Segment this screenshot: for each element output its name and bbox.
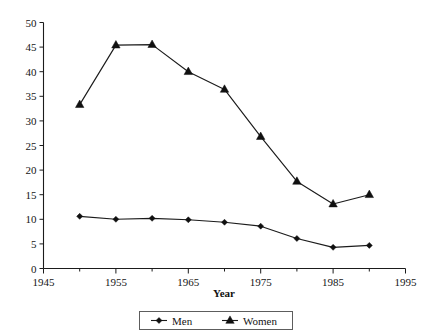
y-tick-label: 40 [26,66,38,78]
chart-canvas: 05101520253035404550 1945195519651975198… [0,0,431,334]
x-axis-title: Year [213,287,235,299]
y-tick-label: 30 [26,115,38,127]
data-point-men-1975 [258,223,264,229]
y-tick-label: 0 [31,263,37,275]
y-tick-label: 50 [26,17,38,29]
data-point-men-1990 [366,242,372,248]
y-tick-label: 10 [26,213,38,225]
y-axis: 05101520253035404550 [26,17,44,275]
x-tick-label: 1985 [322,276,345,288]
y-tick-label: 45 [26,41,38,53]
x-tick-label: 1975 [250,276,273,288]
data-point-men-1965 [185,217,191,223]
y-tick-label: 25 [26,140,38,152]
data-point-women-1990 [365,190,373,197]
data-point-men-1960 [149,215,155,221]
data-point-women-1955 [112,41,120,48]
y-tick-label: 20 [26,164,38,176]
x-tick-label: 1965 [177,276,200,288]
series-line-women [80,45,370,204]
line-chart: 05101520253035404550 1945195519651975198… [0,0,431,334]
chart-legend: MenWomen [140,312,293,330]
data-point-women-1965 [184,67,192,74]
data-point-men-1950 [77,213,83,219]
legend-label-men: Men [172,315,193,327]
x-tick-label: 1945 [33,276,56,288]
legend-label-women: Women [243,315,277,327]
y-tick-label: 15 [26,189,38,201]
y-tick-label: 5 [31,238,37,250]
x-tick-label: 1995 [395,276,418,288]
data-point-women-1950 [76,100,84,107]
data-point-men-1970 [222,219,228,225]
x-tick-label: 1955 [105,276,128,288]
data-point-men-1955 [113,216,119,222]
y-tick-label: 35 [26,90,38,102]
data-series-group [76,40,374,250]
x-axis: 194519551965197519851995 [33,269,418,288]
data-point-men-1980 [294,235,300,241]
data-point-men-1985 [330,244,336,250]
data-point-women-1960 [148,40,156,47]
